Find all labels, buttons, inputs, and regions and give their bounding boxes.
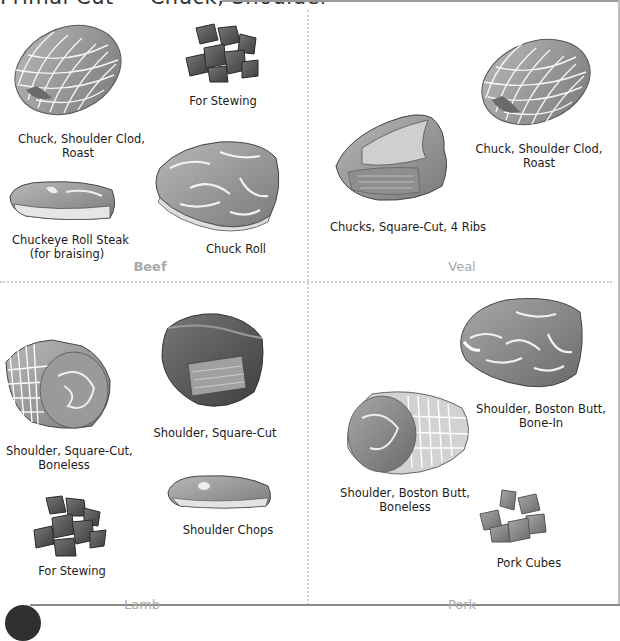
label-line: Shoulder, Square-Cut — [150, 426, 280, 440]
label-line: Roast — [18, 146, 138, 160]
label-line: Shoulder, Boston Butt, — [476, 402, 606, 416]
boneless-roast-illustration — [2, 336, 114, 432]
label-line: Roast — [474, 156, 604, 170]
label-line: Boneless — [6, 458, 122, 472]
label-line: Chuck, Shoulder Clod, — [474, 142, 604, 156]
square-cut-illustration — [158, 308, 268, 412]
section-title-beef: Beef — [110, 259, 190, 274]
label-line: Bone-In — [476, 416, 606, 430]
label-line: (for braising) — [12, 247, 122, 261]
stew-cubes-illustration — [184, 22, 262, 84]
chop-illustration — [164, 472, 274, 512]
section-title-veal: Veal — [422, 259, 502, 274]
vertical-divider — [307, 10, 309, 605]
label-line: Shoulder, Boston Butt, — [340, 486, 470, 500]
stew-cubes-illustration — [32, 494, 108, 558]
label-line: Boneless — [340, 500, 470, 514]
label-line: Shoulder, Square-Cut, — [6, 444, 122, 458]
label-line: Chuck Roll — [196, 242, 276, 256]
section-title-pork: Pork — [422, 597, 502, 612]
bone-in-roast-illustration — [456, 294, 586, 392]
boneless-roast-illustration — [342, 388, 474, 478]
title-rule — [222, 0, 620, 2]
label-line: Chucks, Square-Cut, 4 Ribs — [330, 220, 480, 234]
label-line: For Stewing — [22, 564, 122, 578]
chuck-roll-illustration — [150, 138, 284, 234]
page-number-badge — [5, 605, 41, 641]
square-cut-illustration — [328, 106, 450, 204]
label-line: Pork Cubes — [484, 556, 574, 570]
label-line: Chuckeye Roll Steak — [12, 233, 122, 247]
pork-cubes-illustration — [478, 488, 550, 544]
steak-illustration — [6, 176, 118, 226]
tied-roast-illustration — [8, 20, 128, 120]
label-line: Shoulder Chops — [178, 523, 278, 537]
horizontal-divider — [0, 281, 612, 283]
label-line: For Stewing — [178, 94, 268, 108]
tied-roast-illustration — [474, 34, 598, 130]
section-title-lamb: Lamb — [102, 597, 182, 612]
label-line: Chuck, Shoulder Clod, — [18, 132, 138, 146]
